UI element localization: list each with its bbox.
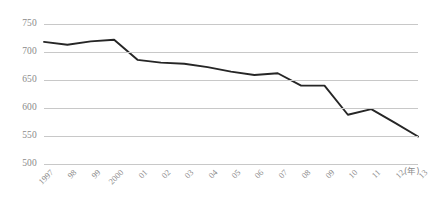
y-tick-label: 600 <box>22 103 37 113</box>
gridline <box>44 108 418 109</box>
series-line <box>44 24 418 164</box>
y-tick-label: 650 <box>22 75 37 85</box>
gridline <box>44 80 418 81</box>
y-tick-label: 550 <box>22 131 37 141</box>
y-tick-label: 700 <box>22 47 37 57</box>
x-tick-label: 04 <box>207 168 219 180</box>
gridline <box>44 52 418 53</box>
x-tick-label: 11 <box>370 168 382 180</box>
x-tick-label: 08 <box>300 168 312 180</box>
x-axis-unit-label: (年) <box>404 167 420 176</box>
x-tick-label: 99 <box>90 168 102 180</box>
x-axis: 19979899200001020304050607080910111213 <box>44 164 418 211</box>
x-tick-label: 05 <box>230 168 242 180</box>
line-chart: 750700650600550500 199798992000010203040… <box>0 0 433 211</box>
x-tick-label: 03 <box>183 168 195 180</box>
x-tick-label: 10 <box>347 168 359 180</box>
gridline <box>44 24 418 25</box>
y-tick-label: 500 <box>22 159 37 169</box>
x-tick-label: 09 <box>323 168 335 180</box>
x-tick-label: 02 <box>160 168 172 180</box>
x-tick-label: 01 <box>136 168 148 180</box>
gridline <box>44 136 418 137</box>
data-series-polyline <box>44 40 418 137</box>
x-tick-label: 07 <box>277 168 289 180</box>
x-tick-label: 06 <box>253 168 265 180</box>
x-tick-label: 2000 <box>107 168 125 186</box>
plot-area <box>44 24 418 164</box>
x-tick-label: 98 <box>66 168 78 180</box>
y-tick-label: 750 <box>22 19 37 29</box>
